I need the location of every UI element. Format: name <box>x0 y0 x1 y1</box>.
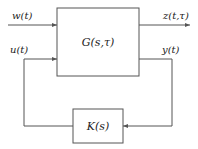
u-input-path <box>24 59 73 126</box>
block-diagram: G(s,τ) K(s) w(t) u(t) z(t,τ) y(t) <box>0 0 198 149</box>
plant-label: G(s,τ) <box>82 36 115 49</box>
z-label: z(t,τ) <box>162 10 189 21</box>
u-label: u(t) <box>10 44 28 55</box>
y-label: y(t) <box>161 44 180 55</box>
w-label: w(t) <box>12 10 32 21</box>
y-output-path <box>123 59 172 126</box>
controller-label: K(s) <box>86 120 109 133</box>
